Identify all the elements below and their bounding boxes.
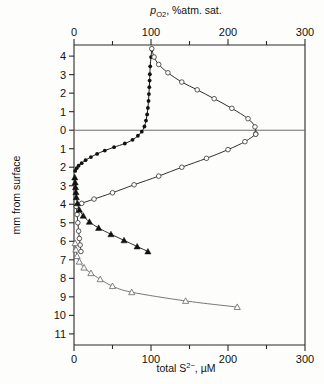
marker-oxygen-filled-circles-16 — [146, 106, 150, 110]
top-tick-label-300: 300 — [296, 26, 314, 38]
y-tick-label-7: 7 — [60, 254, 66, 266]
marker-sulfide-open-circles-lower-6 — [132, 183, 137, 188]
top-axis-title-rest: , %atm. sat. — [166, 4, 221, 16]
y-tick-label-3: 3 — [60, 69, 66, 81]
top-tick-label-200: 200 — [219, 26, 237, 38]
top-tick-label-0: 0 — [71, 26, 77, 38]
y-tick-label-4: 4 — [60, 50, 66, 62]
y-tick-label-6: 6 — [60, 235, 66, 247]
y-tick-label-0: 0 — [60, 124, 66, 136]
y-tick-label-8: 8 — [60, 272, 66, 284]
marker-sulfide-open-circles-upper-0 — [149, 46, 154, 51]
y-tick-label-3: 3 — [60, 180, 66, 192]
y-axis-title: mm from surface — [10, 155, 22, 234]
marker-sulfide-open-circles-upper-4 — [180, 80, 185, 85]
marker-sulfide-open-circles-upper-5 — [195, 88, 200, 93]
marker-oxygen-filled-circles-8 — [112, 145, 116, 149]
marker-sulfide-open-circles-lower-3 — [204, 156, 209, 161]
marker-sulfide-open-circles-lower-4 — [180, 165, 185, 170]
bottom-axis-title-rest: , µM — [195, 362, 216, 374]
y-tick-label-1: 1 — [60, 106, 66, 118]
marker-oxygen-filled-circles-22 — [148, 64, 152, 68]
figure-container: pO2, %atm. sat. 0100200300 4321012345678… — [0, 0, 324, 384]
marker-oxygen-filled-circles-6 — [95, 152, 99, 156]
marker-oxygen-filled-circles-5 — [89, 155, 93, 159]
marker-sulfide-open-circles-lower-1 — [243, 139, 248, 144]
marker-oxygen-filled-circles-10 — [131, 138, 135, 142]
bottom-axis-title-pre: total S — [157, 362, 187, 374]
marker-sulfide-open-circles-descending-3 — [76, 229, 81, 234]
y-tick-label-10: 10 — [54, 309, 66, 321]
marker-oxygen-filled-circles-21 — [148, 72, 152, 76]
marker-oxygen-filled-circles-15 — [145, 113, 149, 117]
y-tick-label-9: 9 — [60, 291, 66, 303]
bottom-tick-label-300: 300 — [296, 353, 314, 365]
marker-oxygen-filled-circles-11 — [136, 134, 140, 138]
marker-oxygen-filled-circles-7 — [103, 149, 107, 153]
marker-oxygen-filled-circles-9 — [123, 142, 127, 146]
y-tick-label-2: 2 — [60, 87, 66, 99]
marker-sulfide-open-circles-upper-1 — [152, 55, 157, 60]
marker-sulfide-open-circles-lower-7 — [110, 190, 115, 195]
marker-sulfide-open-circles-descending-6 — [79, 249, 84, 254]
marker-sulfide-open-circles-upper-2 — [156, 62, 161, 67]
marker-oxygen-filled-circles-13 — [143, 125, 147, 129]
chart-background — [0, 0, 324, 384]
bottom-tick-label-200: 200 — [219, 353, 237, 365]
marker-sulfide-open-circles-upper-8 — [246, 116, 251, 121]
marker-sulfide-open-circles-upper-6 — [212, 96, 217, 101]
y-tick-label-11: 11 — [55, 328, 66, 340]
marker-sulfide-open-circles-upper-3 — [166, 70, 171, 75]
marker-oxygen-filled-circles-18 — [147, 92, 151, 96]
marker-oxygen-filled-circles-3 — [80, 161, 84, 165]
y-tick-label-1: 1 — [60, 143, 66, 155]
marker-sulfide-open-circles-lower-5 — [156, 174, 161, 179]
marker-oxygen-filled-circles-14 — [144, 119, 148, 123]
marker-sulfide-open-circles-lower-0 — [253, 132, 258, 137]
marker-sulfide-open-circles-lower-8 — [92, 197, 97, 202]
marker-sulfide-open-circles-upper-7 — [230, 106, 235, 111]
marker-oxygen-filled-circles-2 — [77, 164, 81, 168]
marker-sulfide-open-circles-descending-5 — [78, 243, 83, 248]
marker-oxygen-filled-circles-17 — [147, 99, 151, 103]
y-tick-label-4: 4 — [60, 198, 66, 210]
marker-sulfide-open-circles-upper-9 — [253, 125, 258, 130]
marker-sulfide-open-circles-descending-1 — [75, 212, 80, 217]
y-tick-label-5: 5 — [60, 217, 66, 229]
marker-oxygen-filled-circles-19 — [147, 85, 151, 89]
marker-oxygen-filled-circles-12 — [140, 130, 144, 134]
marker-sulfide-open-circles-descending-2 — [76, 220, 81, 225]
bottom-axis-title: total S2−, µM — [157, 361, 216, 374]
depth-profile-chart: pO2, %atm. sat. 0100200300 4321012345678… — [0, 0, 324, 384]
marker-sulfide-open-circles-descending-4 — [77, 236, 82, 241]
marker-sulfide-open-circles-lower-2 — [226, 147, 231, 152]
top-tick-label-100: 100 — [142, 26, 160, 38]
bottom-tick-label-0: 0 — [71, 353, 77, 365]
marker-oxygen-filled-circles-20 — [148, 79, 152, 83]
y-tick-label-2: 2 — [60, 161, 66, 173]
marker-oxygen-filled-circles-4 — [84, 158, 88, 162]
